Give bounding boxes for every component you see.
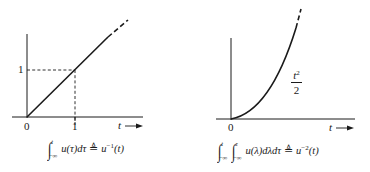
fraction-bar bbox=[291, 82, 302, 83]
parabola-curve-label: t2 2 bbox=[291, 70, 302, 96]
inner-upper-limit: τ bbox=[235, 141, 241, 148]
result-argument: (t) bbox=[309, 145, 319, 156]
outer-upper-limit: t bbox=[221, 141, 227, 148]
parabola-caption: ∫ t −∞ ∫ τ −∞ u(λ)dλdτ ≜ u−2(t) bbox=[217, 141, 319, 161]
ramp-x-axis-label: t bbox=[118, 120, 121, 131]
result-argument: (t) bbox=[114, 143, 124, 154]
ramp-caption: ∫ t −∞ u(τ)dτ ≜ u−1(t) bbox=[47, 139, 124, 159]
inner-integral-sign: ∫ bbox=[232, 142, 236, 161]
curve-label-numerator: t2 bbox=[293, 70, 300, 81]
parabola-curve bbox=[231, 28, 296, 119]
integral-upper-limit: t bbox=[51, 139, 57, 146]
result-exponent: −1 bbox=[107, 142, 114, 150]
integrand: u(λ)dλdτ bbox=[246, 146, 282, 157]
integral-sign: ∫ bbox=[48, 140, 52, 159]
ramp-x-tick-label-0: 0 bbox=[24, 121, 30, 132]
result-function: u−1(t) bbox=[101, 144, 124, 155]
parabola-t-arrow-head bbox=[347, 126, 354, 131]
ramp-y-tick-label-1: 1 bbox=[18, 64, 24, 75]
result-function: u−2(t) bbox=[296, 146, 319, 157]
parabola-curve-continuation bbox=[296, 9, 301, 28]
ramp-line-continuation bbox=[108, 20, 128, 37]
curve-label-exponent: 2 bbox=[296, 69, 300, 77]
ramp-line bbox=[27, 37, 108, 117]
curve-label-denominator: 2 bbox=[294, 85, 300, 96]
defined-as-symbol: ≜ bbox=[89, 144, 98, 155]
ramp-x-tick-label-1: 1 bbox=[72, 121, 78, 132]
integrand: u(τ)dτ bbox=[61, 144, 86, 155]
parabola-x-tick-label-0: 0 bbox=[228, 122, 234, 133]
outer-integral-sign: ∫ bbox=[218, 142, 222, 161]
inner-integral-limits: τ −∞ bbox=[234, 141, 241, 161]
ramp-t-arrow-head bbox=[136, 124, 143, 129]
parabola-x-axis-label: t bbox=[329, 122, 332, 133]
ramp-plot bbox=[12, 20, 143, 126]
parabola-plot bbox=[216, 9, 355, 128]
defined-as-symbol: ≜ bbox=[284, 146, 293, 157]
result-exponent: −2 bbox=[301, 144, 308, 152]
